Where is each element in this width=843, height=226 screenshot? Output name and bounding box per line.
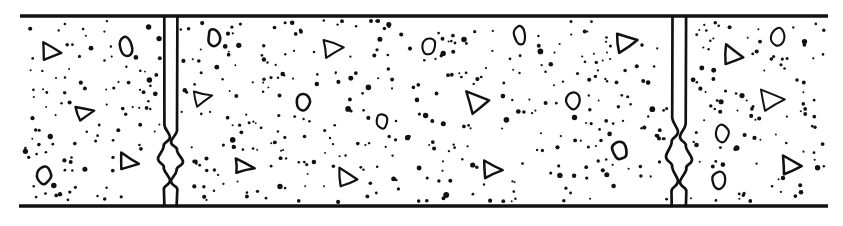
stipple-dot [146, 24, 151, 29]
stipple-dot [138, 123, 142, 127]
stipple-dot [812, 57, 814, 59]
stipple-dot [277, 76, 279, 78]
stipple-dot [821, 142, 825, 146]
stipple-dot [284, 21, 287, 24]
stipple-dot [31, 138, 33, 140]
stipple-dot [803, 43, 807, 47]
stipple-dot [82, 167, 87, 172]
stipple-dot [366, 116, 370, 120]
stipple-dot [349, 56, 351, 58]
stipple-dot [572, 173, 576, 177]
stipple-dot [31, 57, 34, 60]
stipple-dot [588, 94, 590, 96]
stipple-dot [743, 133, 747, 137]
stipple-dot [395, 120, 398, 123]
stipple-dot [375, 48, 378, 51]
stipple-dot [387, 67, 391, 71]
stipple-dot [323, 19, 325, 21]
stipple-dot [562, 199, 566, 203]
stipple-dot [361, 92, 364, 95]
stipple-dot [602, 60, 604, 62]
stipple-dot [509, 57, 512, 60]
stipple-dot [696, 81, 699, 84]
stipple-dot [590, 20, 593, 23]
stipple-dot [423, 113, 428, 118]
stipple-dot [639, 165, 642, 168]
stipple-dot [227, 53, 231, 57]
stipple-dot [134, 55, 139, 60]
stipple-dot [256, 149, 258, 151]
stipple-dot [599, 139, 603, 143]
stipple-dot [426, 176, 429, 179]
stipple-dot [313, 51, 316, 54]
stipple-dot [585, 176, 588, 179]
stipple-dot [553, 52, 555, 54]
stipple-dot [344, 154, 346, 156]
stipple-dot [245, 195, 249, 199]
stipple-dot [149, 84, 152, 87]
stipple-dot [460, 76, 463, 79]
stipple-dot [145, 106, 149, 110]
stipple-dot [270, 165, 273, 168]
stipple-dot [213, 168, 216, 171]
stipple-dot [650, 175, 652, 177]
stipple-dot [385, 146, 387, 148]
stipple-dot [58, 192, 62, 196]
stipple-dot [34, 128, 37, 131]
stipple-dot [387, 135, 391, 139]
stipple-dot [451, 34, 455, 38]
stipple-dot [285, 157, 287, 159]
stipple-dot [802, 81, 806, 85]
stipple-dot [33, 96, 35, 98]
stipple-dot [446, 73, 450, 77]
stipple-dot [757, 116, 761, 120]
stipple-dot [454, 42, 457, 45]
stipple-dot [262, 57, 266, 61]
stipple-dot [442, 196, 446, 200]
stipple-dot [348, 98, 352, 102]
stipple-dot [273, 26, 277, 30]
stipple-dot [304, 185, 306, 187]
stipple-dot [64, 169, 67, 172]
stipple-dot [501, 94, 506, 99]
stipple-dot [377, 37, 382, 42]
stipple-dot [324, 152, 326, 154]
stipple-dot [112, 86, 115, 89]
stipple-dot [350, 109, 353, 112]
stipple-dot [332, 143, 334, 145]
stipple-dot [202, 185, 205, 188]
stipple-dot [611, 184, 616, 189]
stipple-dot [465, 71, 468, 74]
stipple-dot [640, 127, 642, 129]
stipple-dot [480, 76, 483, 79]
stipple-dot [417, 166, 422, 171]
stipple-dot [368, 142, 370, 144]
stipple-dot [284, 187, 287, 190]
stipple-dot [584, 60, 587, 63]
stipple-dot [266, 61, 268, 63]
stipple-dot [332, 165, 336, 169]
stipple-dot [388, 26, 391, 29]
stipple-dot [68, 190, 71, 193]
stipple-dot [262, 78, 265, 81]
stipple-dot [785, 142, 788, 145]
stipple-dot [35, 196, 38, 199]
stipple-dot [303, 135, 307, 139]
stipple-dot [739, 93, 744, 98]
stipple-dot [803, 107, 807, 111]
stipple-dot [695, 131, 698, 134]
stipple-dot [277, 184, 282, 189]
stipple-dot [653, 65, 656, 68]
stipple-dot [488, 199, 492, 203]
stipple-dot [473, 83, 475, 85]
stipple-dot [221, 78, 223, 80]
stipple-dot [395, 179, 398, 182]
stipple-dot [781, 176, 785, 180]
stipple-dot [435, 92, 439, 96]
stipple-dot [329, 137, 331, 139]
stipple-dot [555, 145, 559, 149]
stipple-dot [37, 143, 41, 147]
stipple-dot [605, 41, 607, 43]
stipple-dot [205, 169, 209, 173]
stipple-dot [232, 124, 234, 126]
